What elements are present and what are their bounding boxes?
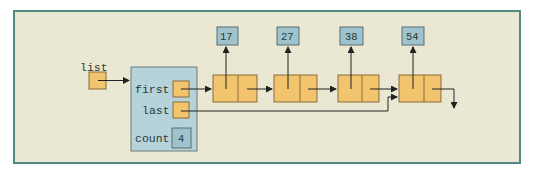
list-node-3: 38: [338, 27, 397, 102]
count-value: 4: [178, 133, 184, 145]
node-value: 38: [345, 31, 358, 43]
list-node-1: 17: [213, 27, 272, 102]
node-value: 54: [406, 31, 419, 43]
last-pointer-box: [173, 102, 189, 118]
list-node-4: 54: [399, 27, 454, 108]
first-field-label: first: [135, 83, 170, 96]
count-field-label: count: [135, 132, 170, 145]
last-field-label: last: [142, 104, 170, 117]
list-node-2: 27: [274, 27, 336, 102]
node-value: 17: [220, 31, 233, 43]
node-value: 27: [281, 31, 294, 43]
linked-list-diagram: list first last count 4 17 27 38: [0, 0, 537, 175]
